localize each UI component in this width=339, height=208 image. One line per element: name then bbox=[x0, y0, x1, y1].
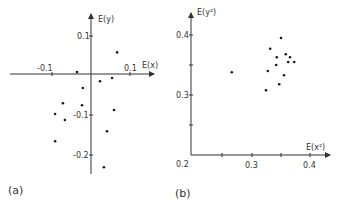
data-point bbox=[283, 74, 286, 77]
data-point bbox=[280, 37, 283, 40]
x-tick-label-b: 0.3 bbox=[245, 161, 258, 170]
panel-b: 0.2 0.3 0.4 0.4 0.3 E(x²) E(y²) (b) bbox=[175, 8, 330, 200]
data-point bbox=[62, 102, 65, 105]
data-point bbox=[287, 61, 290, 64]
data-point bbox=[231, 71, 234, 74]
data-point bbox=[99, 80, 102, 83]
y-axis-label-a: E(y) bbox=[98, 15, 114, 24]
data-point bbox=[103, 166, 106, 169]
data-point bbox=[113, 109, 116, 112]
data-point bbox=[76, 71, 79, 74]
data-point bbox=[54, 113, 57, 116]
x-tick-label-a: 0.1 bbox=[124, 64, 137, 73]
y-tick-label-a: 0.1 bbox=[77, 32, 90, 41]
data-point bbox=[111, 77, 114, 80]
x-tick-label-b: 0.2 bbox=[176, 160, 189, 169]
data-point bbox=[54, 140, 57, 143]
panel-a: -0.1 0.1 0.1 -0.1 -0.2 E(x) E(y) (a) bbox=[8, 14, 158, 197]
data-point bbox=[276, 56, 279, 59]
y-tick-label-b: 0.3 bbox=[176, 91, 189, 100]
data-point bbox=[289, 56, 292, 59]
x-tick-label-a: -0.1 bbox=[37, 64, 53, 73]
data-point bbox=[82, 87, 85, 90]
data-point bbox=[278, 83, 281, 86]
data-point bbox=[64, 119, 67, 122]
data-point bbox=[285, 53, 288, 56]
y-axis-label-b: E(y²) bbox=[197, 8, 216, 17]
y-tick-label-b: 0.4 bbox=[176, 31, 189, 40]
data-point bbox=[275, 64, 278, 67]
data-point bbox=[293, 61, 296, 64]
data-point bbox=[267, 70, 270, 73]
data-point bbox=[265, 89, 268, 92]
figure: -0.1 0.1 0.1 -0.1 -0.2 E(x) E(y) (a) 0.2… bbox=[0, 0, 339, 208]
x-axis-label-b: E(x²) bbox=[306, 143, 325, 152]
y-tick-label-a: -0.2 bbox=[73, 151, 89, 160]
scatter-points-b bbox=[231, 37, 296, 92]
x-axis-label-a: E(x) bbox=[142, 61, 158, 70]
data-point bbox=[106, 130, 109, 133]
x-tick-label-b: 0.4 bbox=[303, 161, 316, 170]
panel-label-b: (b) bbox=[175, 187, 191, 200]
data-point bbox=[81, 104, 84, 107]
panel-label-a: (a) bbox=[8, 184, 23, 197]
data-point bbox=[116, 51, 119, 54]
y-tick-label-a: -0.1 bbox=[73, 111, 89, 120]
data-point bbox=[269, 48, 272, 51]
